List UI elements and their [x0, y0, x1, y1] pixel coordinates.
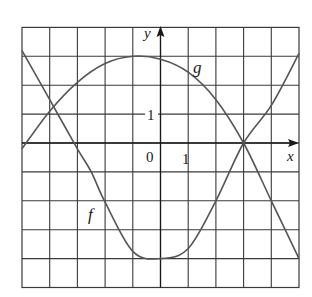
f-curve-label: f: [88, 205, 95, 224]
x-tick-label-1: 1: [182, 151, 190, 167]
y-axis-label: y: [142, 25, 151, 41]
g-curve-label: g: [193, 58, 202, 77]
y-tick-label-1: 1: [147, 107, 155, 123]
graph-figure: y x 0 1 1 f g: [0, 0, 312, 297]
origin-label: 0: [146, 149, 154, 165]
x-axis-label: x: [286, 148, 294, 164]
